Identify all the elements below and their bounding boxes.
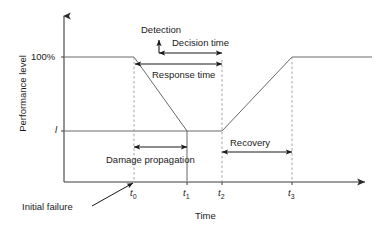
curve-recovery-ramp <box>222 57 292 131</box>
decision-time-label: Decision time <box>172 38 229 48</box>
y-tick-label-l: l <box>55 125 57 135</box>
recovery-label: Recovery <box>230 138 270 148</box>
detection-label: Detection <box>141 25 181 35</box>
performance-resilience-diagram <box>0 0 389 229</box>
damage-propagation-label: Damage propagation <box>106 155 195 165</box>
x-axis-label: Time <box>195 211 216 221</box>
x-tick-label-t0: t0 <box>130 188 137 200</box>
initial-failure-label: Initial failure <box>22 202 73 212</box>
y-axis-label: Performance level <box>17 44 28 144</box>
initial-failure-leader-arrow <box>92 183 133 206</box>
figure-container: Performance level 100% l Detection Decis… <box>0 0 389 229</box>
x-tick-label-t3: t3 <box>288 188 295 200</box>
x-tick-label-t2: t2 <box>218 188 225 200</box>
x-tick-label-t1: t1 <box>183 188 190 200</box>
response-time-label: Response time <box>152 70 215 80</box>
y-tick-label-100: 100% <box>31 52 55 62</box>
performance-curve <box>64 57 372 131</box>
